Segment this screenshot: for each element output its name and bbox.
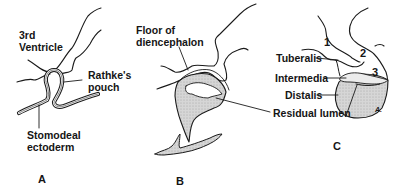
diagram-drawing <box>0 0 403 188</box>
region-number-3: 3 <box>372 66 378 78</box>
label-stomodeal-ectoderm-line2: ectoderm <box>27 141 74 153</box>
label-3rd-ventricle-line1: 3rd <box>19 29 35 41</box>
region-number-1: 1 <box>324 36 330 48</box>
artist-signature: A. <box>375 104 382 116</box>
label-residual-lumen: Residual lumen <box>273 107 351 119</box>
label-stomodeal-ectoderm-line1: Stomodeal <box>27 129 81 141</box>
pituitary-development-diagram: 3rd Ventricle Rathke's pouch Stomodeal e… <box>0 0 403 188</box>
label-floor-of-diencephalon-line1: Floor of <box>136 24 175 36</box>
panel-letter-a: A <box>38 173 46 185</box>
label-tuberalis: Tuberalis <box>276 52 322 64</box>
region-number-2: 2 <box>360 47 366 59</box>
panel-letter-b: B <box>176 175 184 187</box>
label-rathkes-pouch-line2: pouch <box>88 81 120 93</box>
label-floor-of-diencephalon-line2: diencephalon <box>136 36 204 48</box>
panel-letter-c: C <box>333 140 341 152</box>
panel-a-drawing <box>17 8 101 128</box>
label-intermedia: Intermedia <box>275 72 328 84</box>
label-rathkes-pouch-line1: Rathke's <box>88 69 131 81</box>
label-3rd-ventricle-line2: Ventricle <box>19 41 63 53</box>
label-distalis: Distalis <box>285 89 322 101</box>
